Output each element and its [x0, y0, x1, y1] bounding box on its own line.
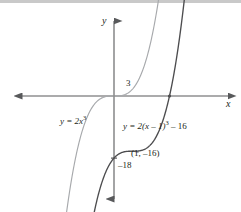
y-axis-label: y — [102, 16, 106, 26]
cubic-functions-plot — [0, 0, 241, 212]
y-intercept-label: –18 — [118, 161, 132, 170]
graph-figure: y x 3 y = 2x3 y = 2(x – 1)3 – 16 (1, –16… — [0, 0, 241, 212]
inflection-point-label: (1, –16) — [131, 149, 160, 158]
curve2-equation-suffix: – 16 — [169, 121, 187, 131]
x-axis-label: x — [226, 99, 230, 109]
curve-label-y-2-x-minus-1-cubed-minus-16: y = 2(x – 1)3 – 16 — [123, 120, 187, 131]
curve-label-y-2x-cubed: y = 2x3 — [60, 115, 86, 126]
x-intercept-tick-label: 3 — [126, 79, 131, 88]
curve2-equation-text: y = 2(x – 1) — [123, 121, 166, 131]
curve1-equation-text: y = 2x — [60, 116, 83, 126]
curve1-exponent: 3 — [83, 114, 86, 121]
x-intercept-marker — [168, 94, 171, 97]
